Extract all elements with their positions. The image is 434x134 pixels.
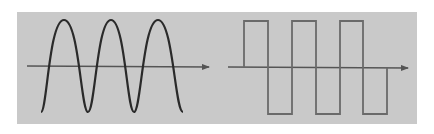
- square-time-axis-arrow: [228, 67, 408, 68]
- sine-time-axis-arrow: [27, 66, 209, 67]
- square-wave-panel: [228, 21, 408, 114]
- waveform-diagram: [0, 0, 434, 134]
- sine-wave-panel: [27, 20, 209, 112]
